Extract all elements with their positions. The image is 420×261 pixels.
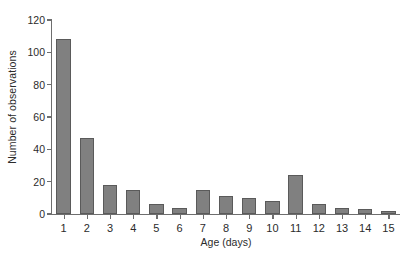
x-tick-label: 9: [246, 222, 252, 234]
x-tick-label: 7: [200, 222, 206, 234]
y-tick-mark: [47, 213, 52, 214]
y-tick-mark: [47, 116, 52, 117]
x-tick-label: 8: [223, 222, 229, 234]
x-tick-label: 4: [130, 222, 136, 234]
x-tick-mark: [296, 215, 297, 220]
x-tick-mark: [319, 215, 320, 220]
bar: [56, 39, 70, 214]
y-tick-label: 0: [39, 208, 45, 220]
y-axis-title: Number of observations: [0, 0, 24, 214]
y-tick-mark: [47, 52, 52, 53]
bar: [242, 198, 256, 214]
x-tick-label: 15: [382, 222, 394, 234]
bar: [126, 190, 140, 214]
y-tick-label: 120: [27, 14, 45, 26]
x-tick-mark: [64, 215, 65, 220]
x-tick-label: 6: [177, 222, 183, 234]
y-tick-mark: [47, 19, 52, 20]
x-tick-label: 12: [313, 222, 325, 234]
bar: [358, 209, 372, 214]
x-tick-mark: [342, 215, 343, 220]
x-tick-mark: [180, 215, 181, 220]
bar: [172, 208, 186, 214]
bar: [219, 196, 233, 214]
bar: [335, 208, 349, 214]
x-tick-mark: [249, 215, 250, 220]
bar-series: [52, 20, 400, 214]
x-tick-mark: [388, 215, 389, 220]
x-tick-mark: [156, 215, 157, 220]
x-tick-mark: [133, 215, 134, 220]
x-tick-label: 14: [359, 222, 371, 234]
x-tick-mark: [87, 215, 88, 220]
bar: [80, 138, 94, 214]
x-tick-label: 1: [61, 222, 67, 234]
bar: [312, 204, 326, 214]
y-tick-mark: [47, 84, 52, 85]
y-tick-mark: [47, 181, 52, 182]
x-tick-label: 2: [84, 222, 90, 234]
bar: [381, 211, 395, 214]
x-tick-mark: [110, 215, 111, 220]
x-tick-label: 10: [266, 222, 278, 234]
x-tick-mark: [203, 215, 204, 220]
histogram-figure: Number of observations 020406080100120 1…: [0, 0, 420, 261]
y-tick-label: 20: [33, 176, 45, 188]
bar: [265, 201, 279, 214]
bar: [288, 175, 302, 214]
y-tick-label: 100: [27, 46, 45, 58]
x-axis-title: Age (days): [52, 236, 400, 248]
y-tick-mark: [47, 149, 52, 150]
bar: [103, 185, 117, 214]
x-tick-label: 5: [153, 222, 159, 234]
x-tick-label: 13: [336, 222, 348, 234]
x-tick-label: 3: [107, 222, 113, 234]
bar: [196, 190, 210, 214]
y-axis-title-text: Number of observations: [6, 50, 18, 164]
x-tick-mark: [226, 215, 227, 220]
y-tick-label: 40: [33, 143, 45, 155]
bar: [149, 204, 163, 214]
x-tick-mark: [272, 215, 273, 220]
x-tick-mark: [365, 215, 366, 220]
y-tick-label: 60: [33, 111, 45, 123]
x-tick-label: 11: [290, 222, 301, 234]
y-tick-label: 80: [33, 79, 45, 91]
plot-area: 020406080100120 123456789101112131415: [52, 20, 400, 214]
